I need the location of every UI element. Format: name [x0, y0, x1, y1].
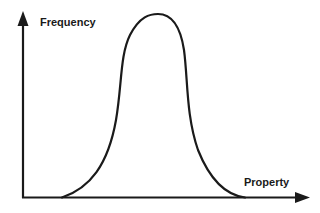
- y-axis-arrow-icon: [18, 11, 29, 26]
- distribution-curve: [62, 14, 245, 198]
- y-axis-label: Frequency: [40, 16, 96, 28]
- x-axis-arrow-icon: [295, 192, 310, 203]
- frequency-distribution-diagram: Frequency Property: [0, 0, 320, 213]
- x-axis-label: Property: [244, 176, 289, 188]
